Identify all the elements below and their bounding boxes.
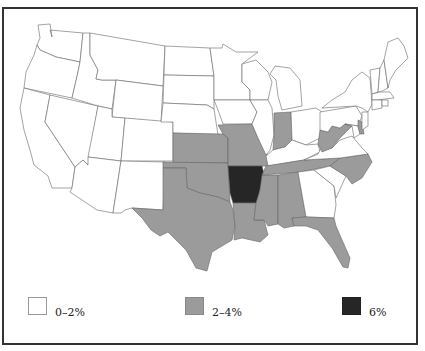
legend-swatch-mid — [185, 297, 204, 315]
legend-label-high: 6% — [369, 307, 386, 318]
state-nd — [164, 46, 214, 76]
state-mt — [90, 33, 165, 86]
legend-item-low: 0–2% — [28, 297, 85, 315]
state-ma — [372, 92, 394, 100]
state-ny — [322, 72, 372, 112]
legend-swatch-low — [28, 297, 47, 315]
legend-item-high: 6% — [342, 297, 386, 315]
legend-label-mid: 2–4% — [212, 307, 242, 318]
legend-item-mid: 2–4% — [185, 297, 242, 315]
state-nj — [362, 112, 368, 130]
state-oh — [291, 108, 322, 145]
state-nm — [113, 161, 165, 213]
state-ia — [214, 100, 257, 124]
state-ct — [372, 100, 382, 110]
state-wy — [112, 80, 163, 122]
state-az — [70, 157, 121, 213]
state-fl — [292, 217, 350, 268]
state-mi — [270, 66, 302, 110]
state-me — [384, 38, 408, 88]
legend-swatch-high — [342, 297, 361, 315]
state-ks — [173, 133, 228, 163]
state-ri — [382, 100, 388, 106]
legend-label-low: 0–2% — [55, 307, 85, 318]
state-co — [121, 118, 173, 161]
